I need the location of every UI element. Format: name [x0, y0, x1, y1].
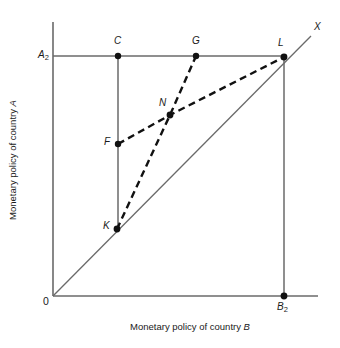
y-axis-title-prefix: Monetary policy of country	[7, 106, 18, 220]
point-label-C: C	[114, 36, 121, 46]
point-N	[167, 112, 174, 119]
y-axis-title: Monetary policy of country A	[8, 100, 18, 220]
point-label-K: K	[103, 221, 110, 231]
diagram-canvas	[0, 0, 340, 348]
origin-label: 0	[43, 296, 49, 307]
point-K	[114, 226, 121, 233]
x-tick-label-b2: B2	[277, 302, 288, 313]
point-B2	[281, 293, 288, 300]
x-axis-title-var: B	[244, 321, 250, 332]
point-F	[115, 141, 121, 147]
y-tick-label-a2-letter: A	[38, 49, 45, 60]
reaction-curve-k-n-g	[117, 56, 196, 229]
point-C	[115, 53, 121, 59]
point-label-F: F	[104, 137, 110, 147]
economics-diagram: C G L N F K B2 A2 0 X Monetary policy of…	[0, 0, 340, 348]
x-tick-label-b2-letter: B	[277, 301, 284, 312]
point-label-L: L	[278, 38, 284, 48]
point-label-N: N	[159, 98, 166, 108]
reaction-curve-f-n-l	[118, 57, 284, 144]
diagonal-45-degree-line	[53, 36, 311, 296]
point-G	[193, 53, 199, 59]
y-axis-title-var: A	[7, 100, 18, 106]
y-tick-label-a2-subscript: 2	[45, 53, 49, 62]
point-label-G: G	[192, 36, 200, 46]
y-tick-label-a2: A2	[38, 50, 49, 61]
point-L	[281, 54, 288, 61]
diagonal-line-label-x: X	[314, 22, 321, 32]
x-tick-label-b2-subscript: 2	[284, 305, 288, 314]
x-axis-title-prefix: Monetary policy of country	[130, 321, 244, 332]
x-axis-title: Monetary policy of country B	[130, 322, 250, 332]
